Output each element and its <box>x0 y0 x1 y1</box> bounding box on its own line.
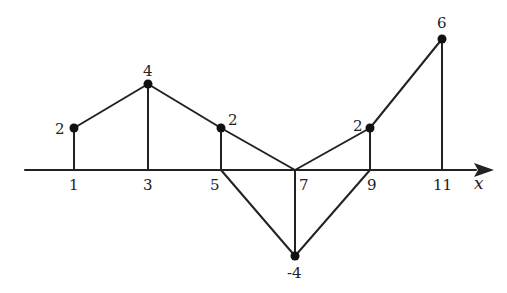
tick-label-1: 1 <box>69 176 79 194</box>
value-label-x3: 4 <box>143 62 153 80</box>
x-axis-label: x <box>474 173 484 193</box>
point-x7-low <box>291 252 300 261</box>
point-x1 <box>70 124 79 133</box>
value-label-x1: 2 <box>55 120 65 138</box>
value-label-x7-low: -4 <box>287 264 302 282</box>
point-x3 <box>144 80 153 89</box>
function-graph: 2 4 2 2 6 -4 1 3 5 7 9 11 x <box>0 0 507 293</box>
tick-label-11: 11 <box>433 176 452 194</box>
value-label-x9: 2 <box>353 117 363 135</box>
tick-label-3: 3 <box>143 176 153 194</box>
tick-label-7: 7 <box>299 176 309 194</box>
point-x11 <box>438 35 447 44</box>
point-x9 <box>366 124 375 133</box>
tick-label-5: 5 <box>210 176 220 194</box>
tick-label-9: 9 <box>367 176 377 194</box>
upper-path <box>74 39 442 170</box>
point-x5 <box>217 124 226 133</box>
value-label-x5: 2 <box>228 111 238 129</box>
value-label-x11: 6 <box>437 14 447 32</box>
